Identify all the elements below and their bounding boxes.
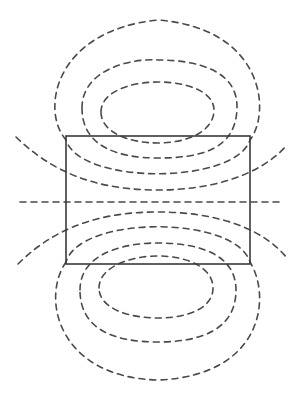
field-diagram: [0, 0, 304, 403]
rectangular-body: [66, 136, 250, 264]
bottom-field-loops: [18, 212, 287, 380]
bottom-inner-loop: [99, 256, 213, 318]
top-open-field-line: [16, 137, 287, 190]
bottom-outer-loop: [56, 227, 260, 380]
top-outer-loop: [55, 20, 260, 174]
field-lines-canvas: [0, 0, 304, 403]
top-inner-loop: [101, 82, 214, 143]
top-field-loops: [16, 20, 287, 190]
